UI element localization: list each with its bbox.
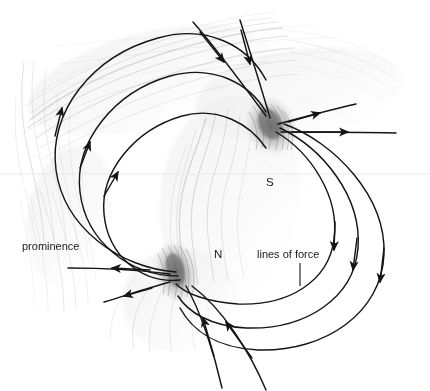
field-line-right-arrowheads bbox=[334, 222, 384, 282]
arrow-right-inner bbox=[334, 222, 335, 250]
solar-magnetic-field-diagram: prominence lines of force N S bbox=[0, 0, 430, 391]
diagram-canvas: prominence lines of force N S bbox=[0, 0, 430, 391]
label-prominence: prominence bbox=[22, 240, 79, 252]
prominence-texture bbox=[15, 3, 410, 356]
label-north-pole: N bbox=[214, 248, 222, 260]
label-south-pole: S bbox=[266, 176, 274, 188]
label-lines-of-force: lines of force bbox=[257, 248, 319, 260]
